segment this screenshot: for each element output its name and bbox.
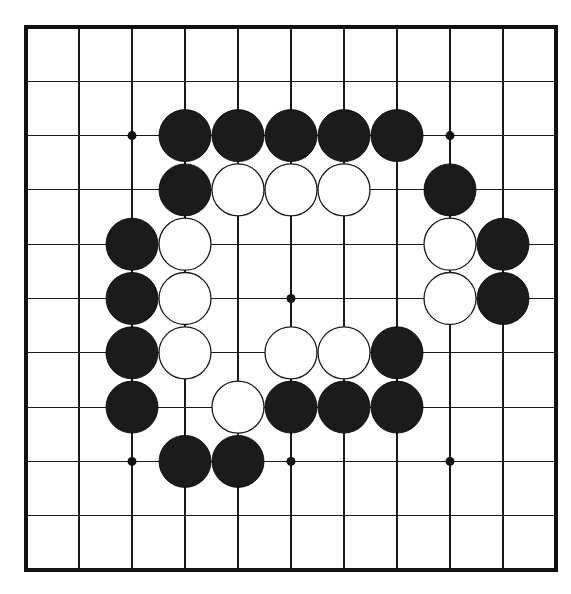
black-stone-icon: [371, 381, 423, 433]
black-stone-icon: [477, 273, 529, 325]
stone-white-c5r3[interactable]: [265, 164, 317, 216]
white-stone-icon: [318, 327, 370, 379]
black-stone-icon: [106, 273, 158, 325]
stone-white-c8r5[interactable]: [424, 273, 476, 325]
hoshi-point-7: [446, 457, 455, 466]
stone-black-c7r2[interactable]: [371, 110, 423, 162]
stone-black-c4r2[interactable]: [212, 110, 264, 162]
black-stone-icon: [212, 435, 264, 487]
stone-black-c5r2[interactable]: [265, 110, 317, 162]
black-stone-icon: [159, 435, 211, 487]
hoshi-point-6: [287, 457, 296, 466]
stone-black-c7r7[interactable]: [371, 381, 423, 433]
goban[interactable]: [0, 0, 571, 594]
stone-white-c5r6[interactable]: [265, 327, 317, 379]
stone-black-c8r3[interactable]: [424, 164, 476, 216]
black-stone-icon: [265, 110, 317, 162]
hoshi-point-1: [446, 131, 455, 140]
stone-black-c9r4[interactable]: [477, 218, 529, 270]
black-stone-icon: [106, 381, 158, 433]
white-stone-icon: [318, 164, 370, 216]
black-stone-icon: [424, 164, 476, 216]
hoshi-point-3: [287, 294, 296, 303]
black-stone-icon: [159, 164, 211, 216]
white-stone-icon: [212, 164, 264, 216]
black-stone-icon: [265, 381, 317, 433]
stone-white-c4r7[interactable]: [212, 381, 264, 433]
stone-black-c3r8[interactable]: [159, 435, 211, 487]
white-stone-icon: [159, 218, 211, 270]
black-stone-icon: [318, 381, 370, 433]
black-stone-icon: [159, 110, 211, 162]
stone-black-c9r5[interactable]: [477, 273, 529, 325]
stone-black-c6r2[interactable]: [318, 110, 370, 162]
white-stone-icon: [159, 327, 211, 379]
black-stone-icon: [106, 327, 158, 379]
stone-black-c2r4[interactable]: [106, 218, 158, 270]
stone-white-c3r6[interactable]: [159, 327, 211, 379]
white-stone-icon: [424, 273, 476, 325]
hoshi-point-0: [128, 131, 137, 140]
white-stone-icon: [424, 218, 476, 270]
stone-black-c3r2[interactable]: [159, 110, 211, 162]
stone-white-c3r5[interactable]: [159, 273, 211, 325]
white-stone-icon: [265, 327, 317, 379]
stone-white-c3r4[interactable]: [159, 218, 211, 270]
stone-black-c7r6[interactable]: [371, 327, 423, 379]
hoshi-point-5: [128, 457, 137, 466]
stone-black-c2r5[interactable]: [106, 273, 158, 325]
stone-black-c4r8[interactable]: [212, 435, 264, 487]
black-stone-icon: [371, 327, 423, 379]
stone-white-c8r4[interactable]: [424, 218, 476, 270]
stone-white-c4r3[interactable]: [212, 164, 264, 216]
go-board-app: [0, 0, 571, 594]
white-stone-icon: [265, 164, 317, 216]
black-stone-icon: [371, 110, 423, 162]
white-stone-icon: [159, 273, 211, 325]
stone-black-c2r6[interactable]: [106, 327, 158, 379]
stone-black-c6r7[interactable]: [318, 381, 370, 433]
white-stone-icon: [212, 381, 264, 433]
black-stone-icon: [477, 218, 529, 270]
black-stone-icon: [106, 218, 158, 270]
stone-black-c3r3[interactable]: [159, 164, 211, 216]
stone-black-c2r7[interactable]: [106, 381, 158, 433]
black-stone-icon: [318, 110, 370, 162]
stone-white-c6r6[interactable]: [318, 327, 370, 379]
black-stone-icon: [212, 110, 264, 162]
stone-black-c5r7[interactable]: [265, 381, 317, 433]
stone-white-c6r3[interactable]: [318, 164, 370, 216]
